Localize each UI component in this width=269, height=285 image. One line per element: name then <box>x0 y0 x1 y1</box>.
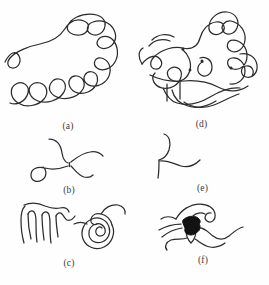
panel-c-label: (c) <box>8 258 130 269</box>
panel-a-drawing <box>2 2 134 120</box>
panel-f-label: (f) <box>148 255 258 266</box>
panel-b <box>14 136 124 186</box>
panel-b-label: (b) <box>14 185 124 196</box>
panel-a <box>2 2 134 120</box>
panel-c-drawing <box>8 202 130 256</box>
panel-f <box>148 202 258 254</box>
panel-f-drawing <box>148 202 258 254</box>
panel-a-label: (a) <box>2 121 134 132</box>
panel-d-drawing <box>136 2 267 118</box>
figure-root: (a) <box>0 0 269 285</box>
panel-e-label: (e) <box>150 183 255 194</box>
panel-d <box>136 2 267 118</box>
panel-c <box>8 202 130 256</box>
panel-b-drawing <box>14 136 124 186</box>
panel-e <box>150 132 255 184</box>
panel-e-drawing <box>150 132 255 184</box>
panel-d-label: (d) <box>136 119 267 130</box>
